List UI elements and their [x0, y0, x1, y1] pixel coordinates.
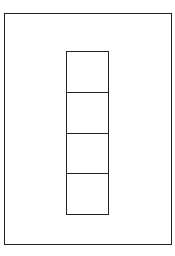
cell-column [66, 51, 109, 215]
cell-divider-2 [67, 133, 108, 134]
cell-divider-3 [67, 173, 108, 174]
cell-divider-1 [67, 92, 108, 93]
